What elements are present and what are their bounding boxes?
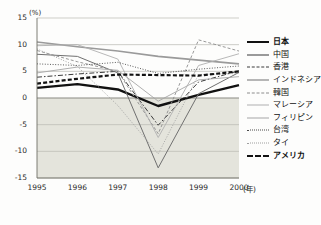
legend-item-6[interactable]: フィリピン bbox=[247, 112, 319, 125]
chart-legend: 日本中国香港インドネシア韓国マレーシアフィリピン台湾タイアメリカ bbox=[247, 36, 319, 162]
y-axis-unit: (%) bbox=[29, 9, 41, 17]
x-tick-label: 1996 bbox=[60, 183, 94, 192]
legend-item-label: 日本 bbox=[273, 38, 289, 46]
legend-line-swatch-icon bbox=[247, 138, 269, 148]
y-tick-label: -5 bbox=[5, 120, 27, 129]
legend-item-8[interactable]: タイ bbox=[247, 137, 319, 150]
legend-item-label: インドネシア bbox=[273, 76, 321, 84]
x-tick-label: 1997 bbox=[101, 183, 135, 192]
legend-item-9[interactable]: アメリカ bbox=[247, 149, 319, 162]
legend-item-label: 台湾 bbox=[273, 126, 289, 134]
legend-item-label: 香港 bbox=[273, 63, 289, 71]
legend-item-3[interactable]: インドネシア bbox=[247, 74, 319, 87]
legend-item-label: アメリカ bbox=[273, 152, 305, 160]
legend-item-0[interactable]: 日本 bbox=[247, 36, 319, 49]
y-tick-label: -10 bbox=[5, 146, 27, 155]
legend-line-swatch-icon bbox=[247, 62, 269, 72]
legend-line-swatch-icon bbox=[247, 50, 269, 60]
series-line-9 bbox=[37, 71, 239, 83]
y-tick-label: 15 bbox=[5, 13, 27, 22]
legend-line-swatch-icon bbox=[247, 100, 269, 110]
legend-item-7[interactable]: 台湾 bbox=[247, 124, 319, 137]
legend-item-label: 中国 bbox=[273, 51, 289, 59]
legend-item-4[interactable]: 韓国 bbox=[247, 86, 319, 99]
x-axis-unit: (年) bbox=[243, 183, 256, 194]
legend-item-2[interactable]: 香港 bbox=[247, 61, 319, 74]
legend-line-swatch-icon bbox=[247, 125, 269, 135]
legend-item-label: フィリピン bbox=[273, 114, 313, 122]
legend-line-swatch-icon bbox=[247, 75, 269, 85]
y-tick-label: 5 bbox=[5, 66, 27, 75]
legend-item-label: マレーシア bbox=[273, 101, 313, 109]
legend-line-swatch-icon bbox=[247, 37, 269, 47]
legend-item-label: 韓国 bbox=[273, 89, 289, 97]
legend-item-label: タイ bbox=[273, 139, 289, 147]
negative-region bbox=[37, 98, 239, 178]
legend-line-swatch-icon bbox=[247, 88, 269, 98]
legend-line-swatch-icon bbox=[247, 151, 269, 161]
y-tick-label: 0 bbox=[5, 93, 27, 102]
y-tick-label: 10 bbox=[5, 40, 27, 49]
legend-line-swatch-icon bbox=[247, 113, 269, 123]
legend-item-1[interactable]: 中国 bbox=[247, 49, 319, 62]
y-tick-label: -15 bbox=[5, 173, 27, 182]
legend-item-5[interactable]: マレーシア bbox=[247, 99, 319, 112]
series-line-7 bbox=[37, 62, 239, 73]
x-tick-label: 1995 bbox=[20, 183, 54, 192]
x-tick-label: 1998 bbox=[141, 183, 175, 192]
x-tick-label: 1999 bbox=[182, 183, 216, 192]
